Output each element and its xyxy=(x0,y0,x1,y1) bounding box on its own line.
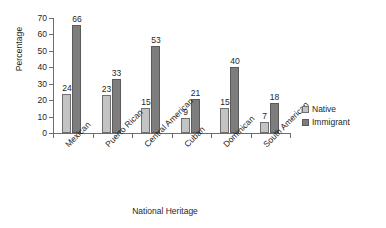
y-tick-label: 70 xyxy=(25,14,47,22)
y-tick-mark xyxy=(49,117,53,118)
y-tick-mark xyxy=(49,18,53,19)
x-tick-mark xyxy=(93,134,94,138)
x-tick-mark xyxy=(290,134,291,138)
legend-swatch-native-icon xyxy=(302,106,309,113)
bar-native xyxy=(62,94,71,133)
legend-label-native: Native xyxy=(312,105,336,114)
legend-swatch-immigrant-icon xyxy=(302,119,309,126)
x-axis-title: National Heritage xyxy=(0,206,330,216)
bar-value-label: 33 xyxy=(107,69,127,78)
x-tick-mark xyxy=(53,134,54,138)
y-tick-mark xyxy=(49,100,53,101)
legend-item-immigrant: Immigrant xyxy=(302,117,350,128)
y-tick-label: 60 xyxy=(25,30,47,38)
y-tick-mark xyxy=(49,34,53,35)
y-tick-label: 30 xyxy=(25,80,47,88)
bar-immigrant xyxy=(72,25,81,133)
y-tick-label: 10 xyxy=(25,113,47,121)
bar-native xyxy=(260,122,269,134)
y-tick-mark xyxy=(49,84,53,85)
chart-legend: Native Immigrant xyxy=(302,104,350,130)
x-tick-mark xyxy=(172,134,173,138)
bar-native xyxy=(220,108,229,133)
y-tick-mark xyxy=(49,67,53,68)
y-axis-title: Percentage xyxy=(14,9,24,89)
bar-immigrant xyxy=(151,46,160,133)
bar-value-label: 18 xyxy=(265,93,285,102)
legend-item-native: Native xyxy=(302,104,350,115)
y-tick-label: 40 xyxy=(25,63,47,71)
x-tick-mark xyxy=(132,134,133,138)
bar-native xyxy=(102,95,111,133)
y-tick-mark xyxy=(49,51,53,52)
y-tick-label: 0 xyxy=(25,129,47,137)
bar-chart: Percentage 010203040506070 2466233315539… xyxy=(0,0,386,228)
bar-immigrant xyxy=(230,67,239,133)
y-axis-line xyxy=(53,18,54,134)
bar-native xyxy=(181,118,190,133)
bar-value-label: 40 xyxy=(225,57,245,66)
bar-value-label: 66 xyxy=(67,15,87,24)
x-tick-mark xyxy=(211,134,212,138)
y-tick-label: 50 xyxy=(25,47,47,55)
y-tick-label: 20 xyxy=(25,96,47,104)
bar-value-label: 53 xyxy=(146,36,166,45)
x-tick-mark xyxy=(251,134,252,138)
legend-label-immigrant: Immigrant xyxy=(312,118,350,127)
